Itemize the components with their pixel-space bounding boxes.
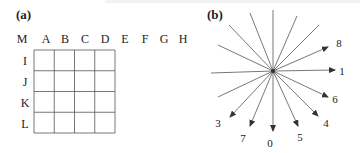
row-label: L <box>21 117 28 131</box>
ray-line <box>273 25 319 71</box>
arrow-ray <box>273 47 328 71</box>
ray-line <box>250 13 273 71</box>
column-label: F <box>142 32 149 46</box>
top-edge-strip <box>105 0 360 3</box>
column-labels: MABCDEFGH <box>17 32 188 46</box>
ray-label: 0 <box>267 137 273 149</box>
column-label: A <box>42 32 51 46</box>
row-label: K <box>21 96 30 110</box>
column-label: C <box>81 32 89 46</box>
ray-line <box>218 45 273 71</box>
center-hub <box>271 69 275 73</box>
arrow-ray <box>250 71 273 126</box>
figure: (a) MABCDEFGH IJKL (b) 81645073 <box>0 0 360 153</box>
column-label: H <box>179 32 188 46</box>
ray-label: 8 <box>336 37 342 49</box>
row-labels: IJKL <box>21 54 30 131</box>
row-label: I <box>23 54 27 68</box>
ray-line <box>229 25 273 71</box>
ray-label: 3 <box>215 117 221 129</box>
figure-canvas: (a) MABCDEFGH IJKL (b) 81645073 <box>0 0 360 153</box>
ray-line <box>273 16 297 71</box>
panel-b-star-diagram: (b) 81645073 <box>207 7 345 149</box>
ray-labels: 81645073 <box>215 37 345 149</box>
panel-b-label: (b) <box>207 7 223 22</box>
arrow-ray <box>273 71 318 116</box>
ray-label: 4 <box>323 117 329 129</box>
ray-label: 5 <box>297 131 303 143</box>
panel-a-label: (a) <box>16 7 31 22</box>
column-label: G <box>160 32 169 46</box>
ray-label: 1 <box>339 65 345 77</box>
column-label: E <box>121 32 128 46</box>
ray-label: 6 <box>332 93 338 105</box>
panel-a-grid-diagram: (a) MABCDEFGH IJKL <box>16 7 188 133</box>
ray-label: 7 <box>240 132 246 144</box>
ray-line <box>218 71 273 97</box>
column-label: D <box>101 32 110 46</box>
column-label: B <box>61 32 69 46</box>
arrow-ray <box>273 71 328 97</box>
row-label: J <box>23 75 28 89</box>
arrow-ray <box>230 71 273 117</box>
grid-4x4 <box>34 50 115 133</box>
column-label: M <box>17 32 28 46</box>
ray-line <box>211 71 273 73</box>
arrow-ray <box>273 70 335 71</box>
arrow-ray <box>273 71 298 126</box>
